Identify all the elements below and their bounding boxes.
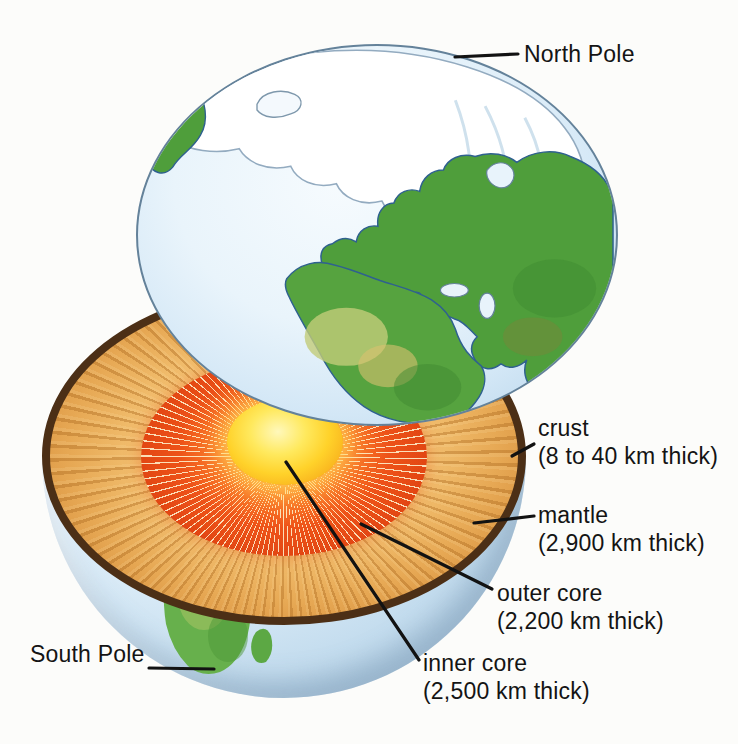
south-landmass-small [251,629,272,663]
mantle-layer-thickness: (2,900 km thick) [538,529,705,557]
mantle-layer-name: mantle [538,501,705,529]
crust-layer-name: crust [538,414,718,442]
crust-layer-thickness: (8 to 40 km thick) [538,442,718,470]
earth-cutaway-diagram: North Pole crust (8 to 40 km thick) mant… [0,0,738,744]
globe-map-art [138,46,616,424]
africa-shade [394,364,461,411]
label-outer-core: outer core (2,200 km thick) [497,579,664,635]
inner-core-layer-thickness: (2,500 km thick) [423,677,590,705]
caspian-sea [479,293,495,318]
inner-core-layer-name: inner core [423,649,590,677]
greenland-landmass [146,87,206,173]
outer-core-layer-thickness: (2,200 km thick) [497,607,664,635]
label-mantle: mantle (2,900 km thick) [538,501,705,557]
outer-core-layer-name: outer core [497,579,664,607]
upper-hemisphere-globe [136,44,618,426]
label-inner-core: inner core (2,500 km thick) [423,649,590,705]
asia-shade [513,259,596,317]
label-north-pole: North Pole [524,40,635,68]
label-crust: crust (8 to 40 km thick) [538,414,718,470]
black-sea [440,283,468,297]
label-south-pole: South Pole [30,640,145,668]
asia-brown-patch [503,317,563,356]
